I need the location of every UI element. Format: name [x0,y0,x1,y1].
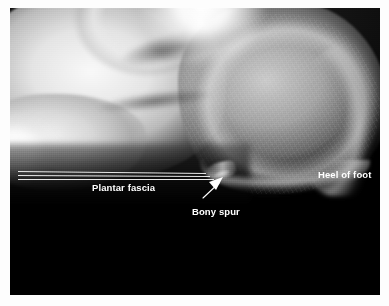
xray-figure: Plantar fascia Bony spur Heel of foot [0,0,389,306]
label-bony-spur: Bony spur [192,207,240,217]
radiograph-image: Plantar fascia Bony spur Heel of foot [10,8,380,295]
plantar-fascia-line [18,179,214,180]
label-heel-of-foot: Heel of foot [318,170,371,180]
label-plantar-fascia: Plantar fascia [92,183,155,193]
